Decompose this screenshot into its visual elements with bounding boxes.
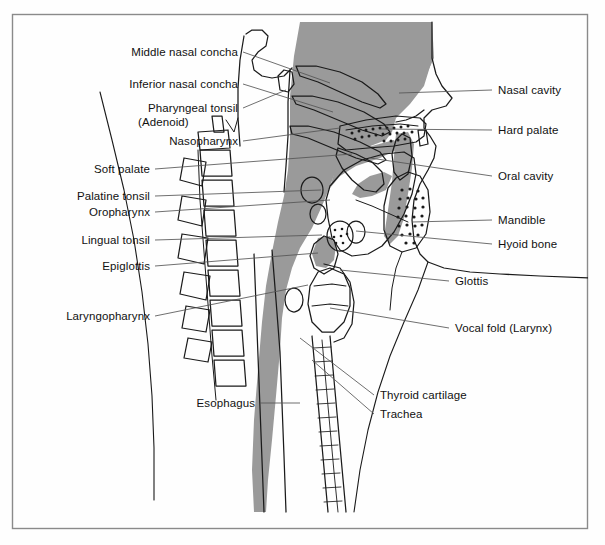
label-oropharynx: Oropharynx (60, 206, 150, 219)
label-hard-palate: Hard palate (498, 124, 559, 137)
label-vocal-fold: Vocal fold (Larynx) (455, 322, 552, 335)
label-nasal-cavity: Nasal cavity (498, 84, 561, 97)
anatomical-figure: Middle nasal concha Inferior nasal conch… (0, 0, 605, 545)
label-thyroid-cartilage: Thyroid cartilage (380, 389, 467, 402)
label-oral-cavity: Oral cavity (498, 170, 553, 183)
label-soft-palate: Soft palate (62, 163, 150, 176)
label-palatine-tonsil: Palatine tonsil (50, 190, 150, 203)
label-glottis: Glottis (455, 275, 488, 288)
label-pharyngeal-tonsil: Pharyngeal tonsil (138, 102, 238, 115)
label-hyoid-bone: Hyoid bone (498, 238, 557, 251)
label-middle-nasal-concha: Middle nasal concha (118, 46, 238, 59)
label-nasopharynx: Nasopharynx (148, 135, 238, 148)
label-laryngopharynx: Laryngopharynx (44, 310, 150, 323)
label-inferior-nasal-concha: Inferior nasal concha (118, 78, 238, 91)
label-epiglottis: Epiglottis (70, 260, 150, 273)
label-trachea: Trachea (380, 408, 422, 421)
label-lingual-tonsil: Lingual tonsil (55, 234, 150, 247)
label-pharyngeal-tonsil-adenoid: (Adenoid) (138, 116, 238, 129)
label-mandible: Mandible (498, 214, 545, 227)
label-esophagus: Esophagus (175, 397, 255, 410)
